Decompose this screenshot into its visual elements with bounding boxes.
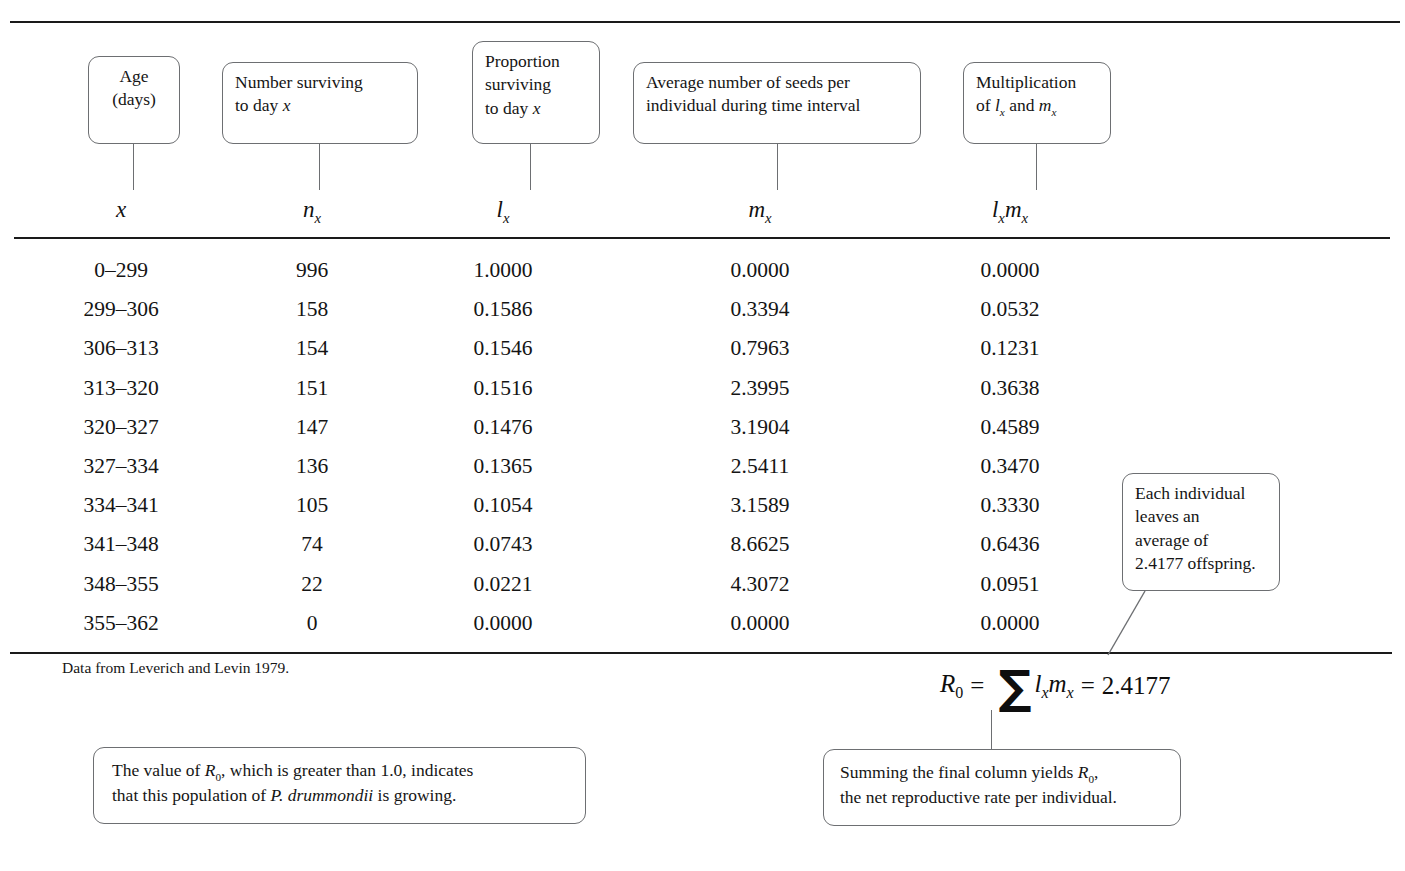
- leader-number-surviving: [319, 144, 320, 190]
- table-cell-lxmx: 0.4589: [980, 415, 1039, 440]
- figure-page: Age (days) Number surviving to day x Pro…: [0, 0, 1405, 871]
- table-cell-lx: 0.0743: [473, 532, 532, 557]
- table-cell-lxmx: 0.0000: [980, 258, 1039, 283]
- callout-offspring-note: Each individual leaves an average of 2.4…: [1122, 473, 1280, 591]
- formula-equals-1: =: [970, 672, 984, 700]
- column-symbol-mx: mx: [748, 197, 771, 227]
- table-cell-nx: 105: [296, 493, 328, 518]
- source-footnote: Data from Leverich and Levin 1979.: [62, 659, 289, 677]
- table-cell-lx: 0.1516: [473, 376, 532, 401]
- callout-average-seeds-line2: individual during time interval: [646, 94, 908, 117]
- leader-proportion-surviving: [530, 144, 531, 190]
- formula-equals-2: =: [1081, 672, 1095, 700]
- column-symbol-lxmx: lxmx: [992, 197, 1028, 227]
- table-cell-mx: 0.3394: [730, 297, 789, 322]
- table-cell-lxmx: 0.6436: [980, 532, 1039, 557]
- table-bottom-rule: [10, 652, 1392, 654]
- table-cell-lxmx: 0.0000: [980, 611, 1039, 636]
- callout-proportion-line2: surviving: [485, 73, 587, 96]
- leader-average-seeds: [777, 144, 778, 190]
- callout-age-line1: Age: [101, 65, 167, 88]
- table-cell-mx: 2.5411: [731, 454, 789, 479]
- table-cell-lx: 0.1546: [473, 336, 532, 361]
- table-cell-x: 313–320: [83, 376, 158, 401]
- table-cell-nx: 147: [296, 415, 328, 440]
- table-cell-lxmx: 0.0532: [980, 297, 1039, 322]
- table-cell-x: 320–327: [83, 415, 158, 440]
- table-cell-mx: 3.1589: [730, 493, 789, 518]
- table-cell-mx: 2.3995: [730, 376, 789, 401]
- table-cell-lx: 0.0221: [473, 572, 532, 597]
- table-cell-lx: 0.1054: [473, 493, 532, 518]
- callout-average-seeds: Average number of seeds per individual d…: [633, 62, 921, 144]
- table-cell-nx: 151: [296, 376, 328, 401]
- callout-number-surviving-line2: to day x: [235, 94, 405, 117]
- table-cell-x: 0–299: [94, 258, 148, 283]
- table-cell-nx: 158: [296, 297, 328, 322]
- callout-multiplication-line1: Multiplication: [976, 71, 1098, 94]
- callout-age: Age (days): [88, 56, 180, 144]
- table-cell-x: 341–348: [83, 532, 158, 557]
- table-cell-nx: 0: [307, 611, 318, 636]
- leader-multiplication: [1036, 144, 1037, 190]
- callout-summing-note: Summing the final column yields R0, the …: [823, 749, 1181, 826]
- formula-result: 2.4177: [1102, 672, 1171, 700]
- table-cell-mx: 0.0000: [730, 611, 789, 636]
- callout-number-surviving: Number surviving to day x: [222, 62, 418, 144]
- table-cell-nx: 74: [301, 532, 323, 557]
- table-cell-x: 306–313: [83, 336, 158, 361]
- table-cell-lxmx: 0.1231: [980, 336, 1039, 361]
- callout-proportion-line3: to day x: [485, 97, 587, 120]
- offspring-note-line2: leaves an: [1135, 505, 1267, 528]
- table-cell-x: 334–341: [83, 493, 158, 518]
- growth-note-line2: that this population of P. drummondii is…: [112, 784, 567, 807]
- growth-note-line1: The value of R0, which is greater than 1…: [112, 759, 567, 784]
- table-cell-lx: 0.1476: [473, 415, 532, 440]
- table-cell-lx: 0.1586: [473, 297, 532, 322]
- table-cell-mx: 3.1904: [730, 415, 789, 440]
- table-cell-nx: 22: [301, 572, 323, 597]
- column-symbol-x: x: [116, 197, 126, 223]
- callout-average-seeds-line1: Average number of seeds per: [646, 71, 908, 94]
- table-cell-x: 355–362: [83, 611, 158, 636]
- table-cell-x: 299–306: [83, 297, 158, 322]
- table-cell-nx: 154: [296, 336, 328, 361]
- offspring-note-line3: average of: [1135, 529, 1267, 552]
- summation-sigma-icon: ∑: [998, 670, 1031, 706]
- table-cell-lx: 0.0000: [473, 611, 532, 636]
- formula-lhs: R0: [940, 670, 963, 702]
- table-cell-x: 348–355: [83, 572, 158, 597]
- callout-proportion-line1: Proportion: [485, 50, 587, 73]
- table-cell-lxmx: 0.3330: [980, 493, 1039, 518]
- table-cell-lxmx: 0.3638: [980, 376, 1039, 401]
- callout-growth-note: The value of R0, which is greater than 1…: [93, 747, 586, 824]
- callout-multiplication: Multiplication of lx and mx: [963, 62, 1111, 144]
- table-cell-lxmx: 0.0951: [980, 572, 1039, 597]
- callout-proportion-surviving: Proportion surviving to day x: [472, 41, 600, 144]
- table-header-rule: [14, 237, 1390, 239]
- table-cell-mx: 4.3072: [730, 572, 789, 597]
- callout-multiplication-line2: of lx and mx: [976, 94, 1098, 119]
- table-cell-x: 327–334: [83, 454, 158, 479]
- table-cell-mx: 0.0000: [730, 258, 789, 283]
- column-symbol-lx: lx: [497, 197, 510, 227]
- table-cell-nx: 996: [296, 258, 328, 283]
- table-cell-lx: 1.0000: [473, 258, 532, 283]
- callout-age-line2: (days): [101, 88, 167, 111]
- callout-number-surviving-line1: Number surviving: [235, 71, 405, 94]
- table-top-rule: [10, 21, 1400, 23]
- leader-summing-note: [991, 710, 992, 750]
- table-cell-mx: 0.7963: [730, 336, 789, 361]
- summing-note-line2: the net reproductive rate per individual…: [840, 786, 1164, 809]
- table-cell-nx: 136: [296, 454, 328, 479]
- offspring-note-line1: Each individual: [1135, 482, 1267, 505]
- formula-term: lxmx: [1034, 670, 1073, 702]
- table-cell-lxmx: 0.3470: [980, 454, 1039, 479]
- leader-age: [133, 144, 134, 190]
- leader-offspring-note: [1090, 588, 1170, 668]
- r0-formula: R0 = ∑ lxmx = 2.4177: [940, 668, 1171, 704]
- offspring-note-line4: 2.4177 offspring.: [1135, 552, 1267, 575]
- table-cell-lx: 0.1365: [473, 454, 532, 479]
- summing-note-line1: Summing the final column yields R0,: [840, 761, 1164, 786]
- table-cell-mx: 8.6625: [730, 532, 789, 557]
